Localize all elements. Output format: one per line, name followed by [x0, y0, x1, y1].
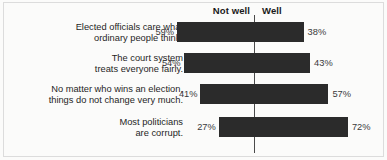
bar-well	[254, 84, 328, 104]
chart-row: Most politicians are corrupt.27%72%	[0, 117, 387, 148]
chart-row: The court system treats everyone fairly.…	[0, 53, 387, 84]
bar-not-well	[177, 22, 254, 42]
row-category-label: Most politicians are corrupt.	[13, 117, 183, 139]
value-label-not-well: 41%	[179, 84, 198, 104]
bar-well	[254, 22, 304, 42]
row-category-label: The court system treats everyone fairly.	[13, 53, 183, 75]
column-header-not-well: Not well	[213, 5, 250, 16]
column-header-well: Well	[262, 5, 282, 16]
chart-row: Elected officials care what ordinary peo…	[0, 22, 387, 53]
value-label-well: 43%	[314, 53, 333, 73]
value-label-not-well: 59%	[155, 22, 174, 42]
value-label-well: 38%	[308, 22, 327, 42]
row-category-label: No matter who wins an election, things d…	[13, 84, 183, 106]
diverging-bar-chart: Not well Well Elected officials care wha…	[0, 0, 387, 160]
bar-well	[254, 53, 310, 73]
value-label-not-well: 54%	[162, 53, 181, 73]
bar-not-well	[184, 53, 254, 73]
bar-well	[254, 117, 348, 137]
value-label-well: 72%	[352, 117, 371, 137]
bar-not-well	[200, 84, 254, 104]
bar-not-well	[219, 117, 254, 137]
value-label-not-well: 27%	[197, 117, 216, 137]
chart-row: No matter who wins an election, things d…	[0, 84, 387, 115]
value-label-well: 57%	[332, 84, 351, 104]
